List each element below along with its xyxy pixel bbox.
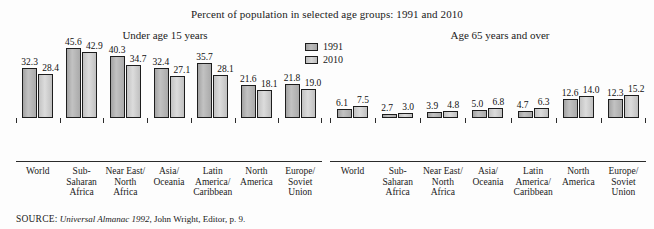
bar-1991: 5.0 [472,110,487,118]
category-label-line: Soviet [601,177,646,188]
category-label-line: Caribbean [511,187,556,198]
right-panel-subtitle: Age 65 years and over [400,29,600,41]
bar-2010: 18.1 [257,90,272,118]
category-label: Asia/Oceania [147,164,191,206]
x-axis-right [330,161,646,162]
category-label-line: Latin [511,166,556,177]
category-label-line: Africa [60,187,104,198]
axis-tick [278,118,279,123]
category-label-line: Saharan [375,177,420,188]
bar-value-label: 32.3 [21,58,38,68]
chart-panel-65-over: 6.17.52.73.03.94.85.06.84.76.312.614.012… [330,44,646,206]
category-label: LatinAmerica/Caribbean [191,164,235,206]
bar-value-label: 27.1 [174,66,191,76]
bar-group: 4.76.3 [511,44,556,118]
bar-value-label: 6.1 [336,99,348,109]
bar-1991: 3.9 [427,112,442,118]
source-note: SOURCE: Universal Almanac 1992, John Wri… [16,214,245,224]
axis-tick [103,118,104,123]
category-label-line: North [556,166,601,177]
category-label-line: Near East/ [103,166,147,177]
bar-value-label: 21.8 [284,74,301,84]
category-label-line: Oceania [465,177,510,188]
category-label-line: North [420,177,465,188]
bar-2010: 19.0 [301,89,316,118]
category-label-line: Union [601,187,646,198]
category-label-line: Europe/ [601,166,646,177]
category-label-line: Asia/ [147,166,191,177]
bar-group: 21.618.1 [235,44,279,118]
bar-1991: 21.6 [241,85,256,118]
left-panel-subtitle: Under age 15 years [70,29,260,41]
plot-area-left: 32.328.445.642.940.334.732.427.135.728.1… [16,44,322,162]
axis-tick [375,118,376,123]
bar-1991: 21.8 [285,84,300,118]
bar-2010: 6.3 [534,108,549,118]
bar-value-label: 32.4 [153,58,170,68]
category-label-line: America/ [511,177,556,188]
bar-value-label: 3.0 [402,103,414,113]
axis-tick [420,118,421,123]
axis-tick [235,118,236,123]
category-label: LatinAmerica/Caribbean [511,164,556,206]
axis-tick [16,118,17,123]
bar-group: 40.334.7 [103,44,147,118]
category-label-line: Oceania [147,177,191,188]
axis-tick [645,118,646,123]
category-label: World [16,164,60,206]
bar-group: 21.819.0 [278,44,322,118]
bar-value-label: 42.9 [86,42,103,52]
bar-value-label: 4.8 [447,101,459,111]
bar-group: 12.614.0 [556,44,601,118]
axis-tick [147,118,148,123]
bar-group: 45.642.9 [60,44,104,118]
bar-2010: 7.5 [353,106,368,118]
category-label: World [330,164,375,206]
bar-2010: 34.7 [126,65,141,118]
bar-2010: 28.4 [38,74,53,118]
bar-1991: 40.3 [110,56,125,118]
plot-area-right: 6.17.52.73.03.94.85.06.84.76.312.614.012… [330,44,646,162]
axis-tick [330,118,331,123]
bar-2010: 15.2 [624,95,639,118]
category-label-line: Union [278,187,322,198]
bar-1991: 35.7 [197,63,212,118]
category-label: Sub-SaharanAfrica [60,164,104,206]
category-labels-left: WorldSub-SaharanAfricaNear East/NorthAfr… [16,164,322,206]
bar-value-label: 21.6 [240,75,257,85]
bar-2010: 14.0 [579,96,594,118]
category-label: Near East/NorthAfrica [103,164,147,206]
category-label-line: North [103,177,147,188]
bar-group: 6.17.5 [330,44,375,118]
bar-value-label: 3.9 [426,102,438,112]
category-label: Sub-SaharanAfrica [375,164,420,206]
category-label-line: Sub- [60,166,104,177]
bar-2010: 6.8 [488,108,503,118]
category-label-line: Asia/ [465,166,510,177]
category-label-line: Sub- [375,166,420,177]
bar-group: 35.728.1 [191,44,235,118]
bar-group: 32.328.4 [16,44,60,118]
axis-tick [321,118,322,123]
bar-1991: 32.4 [154,68,169,118]
category-label-line: World [330,166,375,177]
category-label-line: America [556,177,601,188]
bar-2010: 42.9 [82,52,97,118]
category-label: NorthAmerica [556,164,601,206]
axis-tick [465,118,466,123]
category-label-line: World [16,166,60,177]
bar-value-label: 45.6 [65,38,82,48]
bar-1991: 4.7 [518,111,533,118]
bar-groups-left: 32.328.445.642.940.334.732.427.135.728.1… [16,44,322,118]
category-label-line: North [235,166,279,177]
axis-tick [191,118,192,123]
bar-value-label: 28.4 [42,64,59,74]
category-label-line: America [235,177,279,188]
bar-group: 12.315.2 [601,44,646,118]
bar-value-label: 34.7 [130,55,147,65]
category-label-line: America/ [191,177,235,188]
category-label: NorthAmerica [235,164,279,206]
category-labels-right: WorldSub-SaharanAfricaNear East/NorthAfr… [330,164,646,206]
axis-tick [511,118,512,123]
bar-1991: 2.7 [382,114,397,118]
